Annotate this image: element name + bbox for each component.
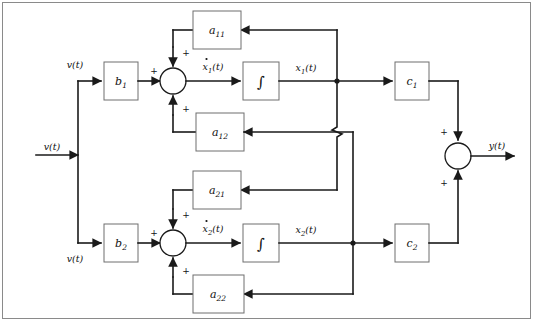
sign-sumout-bottom: + [440, 178, 448, 188]
sign-sum1-top: + [182, 48, 190, 58]
label-x1: x1(t) [296, 62, 317, 76]
label-xdot2: x2(t) [203, 220, 224, 237]
label-x2: x2(t) [296, 224, 317, 238]
block-diagram-canvas: v(t) v(t) v(t) b1 b2 c1 c2 a11 a12 a21 a… [0, 0, 533, 321]
label-branch-top-vt: v(t) [67, 59, 84, 70]
input-split-bus [78, 81, 101, 243]
sign-sum2-left: + [150, 228, 158, 238]
svg-text:x1(t): x1(t) [203, 61, 224, 75]
wire-x1-branch-down [332, 81, 342, 190]
sign-sum1-left: + [150, 66, 158, 76]
sign-sum2-bottom: + [182, 266, 190, 276]
diagram-svg: v(t) v(t) v(t) b1 b2 c1 c2 a11 a12 a21 a… [0, 0, 533, 321]
label-integrator-1: ∫ [257, 73, 265, 91]
svg-text:x2(t): x2(t) [203, 223, 224, 237]
sign-sumout-top: + [440, 127, 448, 137]
sign-sum2-top: + [182, 210, 190, 220]
label-branch-bottom-vt: v(t) [67, 253, 84, 264]
sign-sum1-bottom: + [182, 104, 190, 114]
summing-junction-1 [160, 68, 186, 94]
summing-junction-2 [160, 230, 186, 256]
summing-junction-output [445, 143, 471, 169]
label-output-yt: y(t) [488, 140, 506, 151]
label-integrator-2: ∫ [257, 235, 265, 253]
label-xdot1: x1(t) [203, 58, 224, 75]
label-input-vt: v(t) [44, 141, 61, 152]
